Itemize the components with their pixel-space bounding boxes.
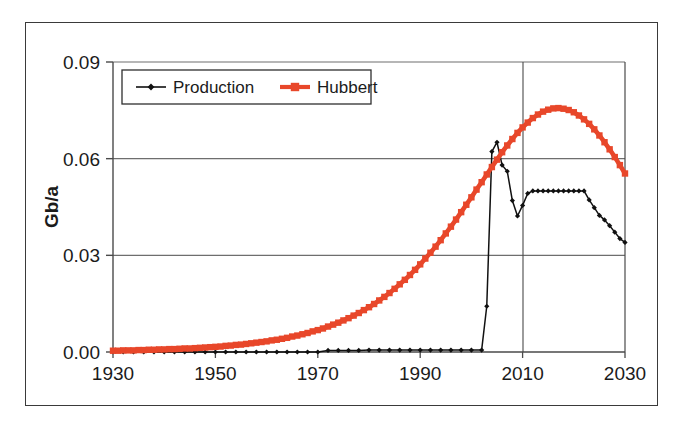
y-axis-title: Gb/a — [41, 185, 62, 228]
legend-label-hubbert: Hubbert — [317, 78, 378, 97]
data-point-marker — [473, 186, 479, 192]
y-axis-ticks: 0.000.030.060.09 — [63, 52, 113, 363]
x-axis-ticks: 193019501970199020102030 — [92, 352, 646, 384]
data-point-marker — [514, 130, 520, 136]
y-tick-label-1: 0.03 — [63, 245, 100, 266]
data-point-marker — [427, 250, 433, 256]
data-point-marker — [504, 142, 510, 148]
x-tick-label-5: 2030 — [604, 363, 646, 384]
data-point-marker — [596, 132, 602, 138]
data-point-marker — [463, 202, 469, 208]
x-tick-label-0: 1930 — [92, 363, 134, 384]
legend-label-production: Production — [173, 78, 254, 97]
data-point-marker — [432, 243, 438, 249]
chart-figure: 0.000.030.060.09 19301950197019902010203… — [0, 0, 678, 423]
chart-legend: ProductionHubbert — [122, 70, 378, 104]
data-point-marker — [453, 216, 459, 222]
data-point-marker — [484, 171, 490, 177]
chart-canvas: 0.000.030.060.09 19301950197019902010203… — [0, 0, 678, 423]
data-point-marker — [478, 179, 484, 185]
x-tick-label-1: 1950 — [194, 363, 236, 384]
data-point-marker — [606, 146, 612, 152]
data-point-marker — [437, 237, 443, 243]
data-point-marker — [509, 136, 515, 142]
y-tick-label-3: 0.09 — [63, 52, 100, 73]
data-point-marker — [417, 261, 423, 267]
x-tick-label-3: 1990 — [399, 363, 441, 384]
data-point-marker — [291, 83, 299, 91]
data-point-marker — [448, 223, 454, 229]
data-point-marker — [443, 230, 449, 236]
data-point-marker — [489, 164, 495, 170]
data-point-marker — [612, 154, 618, 160]
data-point-marker — [422, 255, 428, 261]
x-tick-label-4: 2010 — [501, 363, 543, 384]
y-tick-label-0: 0.00 — [63, 342, 100, 363]
data-point-marker — [591, 126, 597, 132]
data-point-marker — [499, 149, 505, 155]
y-tick-label-2: 0.06 — [63, 149, 100, 170]
data-point-marker — [494, 156, 500, 162]
data-point-marker — [458, 209, 464, 215]
data-point-marker — [617, 162, 623, 168]
data-point-marker — [412, 267, 418, 273]
x-tick-label-2: 1970 — [297, 363, 339, 384]
data-point-marker — [622, 170, 628, 176]
data-point-marker — [601, 139, 607, 145]
data-point-marker — [586, 121, 592, 127]
data-point-marker — [468, 194, 474, 200]
